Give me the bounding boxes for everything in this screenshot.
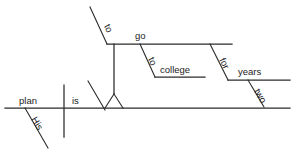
word-plan: plan	[19, 95, 37, 106]
pedestal-left-leg	[105, 94, 114, 108]
sentence-diagram: plan His is to go to college for years t…	[0, 0, 301, 160]
word-his: His	[29, 115, 46, 133]
word-for: for	[217, 56, 232, 71]
word-two: two	[252, 87, 269, 105]
word-is: is	[72, 95, 79, 106]
word-go: go	[135, 30, 146, 41]
pedestal-right-leg	[114, 94, 123, 108]
word-to-preposition: to	[146, 55, 159, 67]
word-years: years	[238, 66, 261, 77]
word-to-marker: to	[102, 22, 115, 34]
word-college: college	[160, 64, 190, 75]
verb-complement-slant	[88, 81, 105, 110]
diagram-canvas: plan His is to go to college for years t…	[0, 0, 301, 160]
